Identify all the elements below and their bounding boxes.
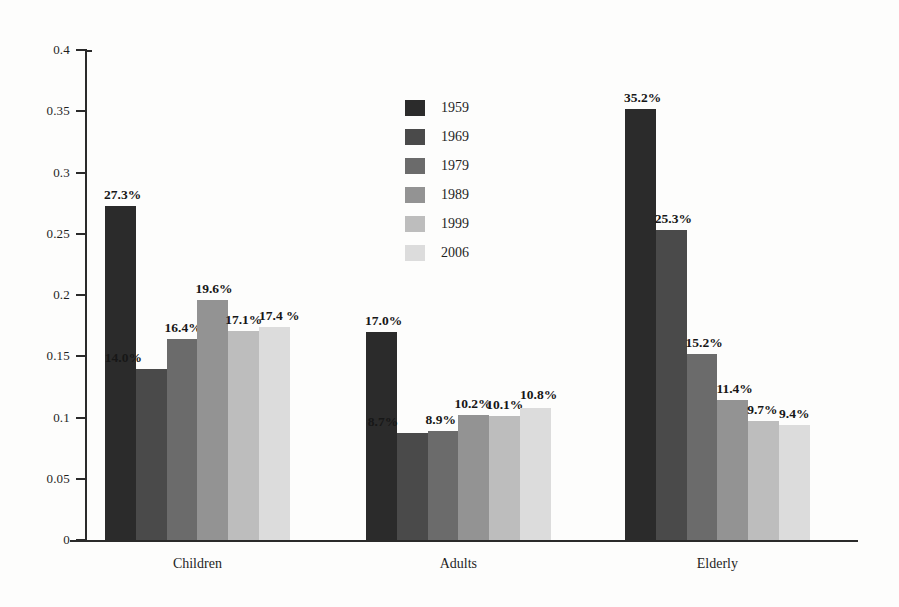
bar-rect[interactable] xyxy=(717,400,748,540)
bar-value-label: 16.4% xyxy=(165,321,202,335)
bar-rect[interactable] xyxy=(105,206,136,540)
x-axis-label-children: Children xyxy=(137,556,257,572)
bar-rect[interactable] xyxy=(228,331,259,540)
bar-value-label: 14.0% xyxy=(105,351,142,365)
bar-value-label: 8.7% xyxy=(368,415,398,429)
x-axis-label-elderly: Elderly xyxy=(657,556,777,572)
bar-rect[interactable] xyxy=(779,425,810,540)
bar-rect[interactable] xyxy=(625,109,656,540)
bar-value-label: 9.4% xyxy=(779,407,809,421)
legend-label: 1959 xyxy=(441,99,469,117)
bar-children-1969[interactable] xyxy=(136,50,167,540)
bar-children-1979[interactable] xyxy=(167,50,198,540)
bar-adults-1999[interactable] xyxy=(489,50,520,540)
bar-children-1959[interactable] xyxy=(105,50,136,540)
bar-rect[interactable] xyxy=(656,230,687,540)
bar-rect[interactable] xyxy=(428,431,459,540)
bar-rect[interactable] xyxy=(489,416,520,540)
legend-label: 2006 xyxy=(441,244,469,262)
bar-elderly-1969[interactable] xyxy=(656,50,687,540)
legend-swatch-icon xyxy=(405,129,425,145)
plot-area: 27.3%14.0%16.4%19.6%17.1%17.4 %17.0%8.7%… xyxy=(0,50,899,540)
bar-value-label: 17.1% xyxy=(225,313,262,327)
legend-swatch-icon xyxy=(405,100,425,116)
x-axis-label-adults: Adults xyxy=(398,556,518,572)
bar-elderly-1979[interactable] xyxy=(687,50,718,540)
bar-value-label: 10.1% xyxy=(486,398,523,412)
x-axis-line xyxy=(70,540,858,542)
bar-elderly-1989[interactable] xyxy=(717,50,748,540)
bar-rect[interactable] xyxy=(687,354,718,540)
legend-swatch-icon xyxy=(405,187,425,203)
legend-swatch-icon xyxy=(405,158,425,174)
bar-elderly-1999[interactable] xyxy=(748,50,779,540)
bar-elderly-2006[interactable] xyxy=(779,50,810,540)
bar-value-label: 19.6% xyxy=(195,282,232,296)
bar-value-label: 10.8% xyxy=(520,388,557,402)
bar-chart: 0.40.350.30.250.20.150.10.050 27.3%14.0%… xyxy=(0,0,899,607)
legend-label: 1999 xyxy=(441,215,469,233)
bar-rect[interactable] xyxy=(197,300,228,540)
bar-rect[interactable] xyxy=(167,339,198,540)
bar-value-label: 8.9% xyxy=(426,413,456,427)
legend-label: 1989 xyxy=(441,186,469,204)
bar-children-1999[interactable] xyxy=(228,50,259,540)
bar-rect[interactable] xyxy=(366,332,397,540)
bar-adults-2006[interactable] xyxy=(520,50,551,540)
bar-value-label: 9.7% xyxy=(747,403,777,417)
bar-rect[interactable] xyxy=(259,327,290,540)
bar-adults-1969[interactable] xyxy=(397,50,428,540)
bar-rect[interactable] xyxy=(458,415,489,540)
bar-adults-1989[interactable] xyxy=(458,50,489,540)
legend-label: 1969 xyxy=(441,128,469,146)
bar-children-2006[interactable] xyxy=(259,50,290,540)
bar-value-label: 17.4 % xyxy=(259,309,300,323)
bar-rect[interactable] xyxy=(520,408,551,540)
legend-swatch-icon xyxy=(405,245,425,261)
bar-adults-1979[interactable] xyxy=(428,50,459,540)
legend-label: 1979 xyxy=(441,157,469,175)
legend-swatch-icon xyxy=(405,216,425,232)
bar-rect[interactable] xyxy=(748,421,779,540)
bar-rect[interactable] xyxy=(136,369,167,541)
bar-elderly-1959[interactable] xyxy=(625,50,656,540)
bar-rect[interactable] xyxy=(397,433,428,540)
bar-adults-1959[interactable] xyxy=(366,50,397,540)
